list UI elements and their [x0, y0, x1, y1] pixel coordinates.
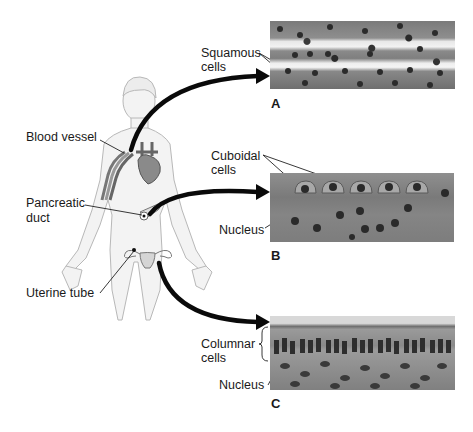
- panel-letter-a: A: [271, 96, 280, 111]
- label-nucleus-b: Nucleus: [219, 223, 264, 237]
- label-nucleus-c: Nucleus: [219, 378, 264, 392]
- arrowhead-b-icon: [256, 184, 270, 200]
- micrograph-a-squamous: [270, 21, 455, 89]
- micrograph-c-columnar: [270, 316, 455, 390]
- label-cuboidal-1: Cuboidal: [211, 149, 260, 163]
- label-uterine-tube: Uterine tube: [26, 286, 94, 300]
- label-squamous-1: Squamous: [201, 46, 261, 60]
- label-pancreatic-duct-2: duct: [26, 211, 50, 225]
- panel-letter-b: B: [271, 248, 280, 263]
- micrograph-b-cuboidal: [270, 173, 454, 242]
- arrowhead-c-icon: [256, 314, 270, 330]
- label-cuboidal-2: cells: [211, 163, 236, 177]
- label-pancreatic-duct-1: Pancreatic: [26, 196, 85, 210]
- label-blood-vessel: Blood vessel: [26, 130, 97, 144]
- label-columnar-2: cells: [201, 351, 226, 365]
- arrowhead-a-icon: [256, 68, 270, 84]
- label-columnar-1: Columnar: [201, 337, 255, 351]
- label-squamous-2: cells: [201, 60, 226, 74]
- panel-letter-c: C: [271, 396, 280, 411]
